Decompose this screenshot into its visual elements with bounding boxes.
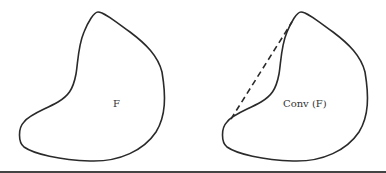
set-conv-f-outline — [223, 12, 368, 161]
diagram-drawing — [0, 0, 386, 173]
label-conv-f: Conv (F) — [283, 98, 327, 109]
bottom-rule — [0, 171, 386, 173]
convex-hull-diagram: F Conv (F) — [0, 0, 386, 173]
label-f: F — [113, 98, 120, 109]
set-f-outline — [20, 12, 165, 161]
